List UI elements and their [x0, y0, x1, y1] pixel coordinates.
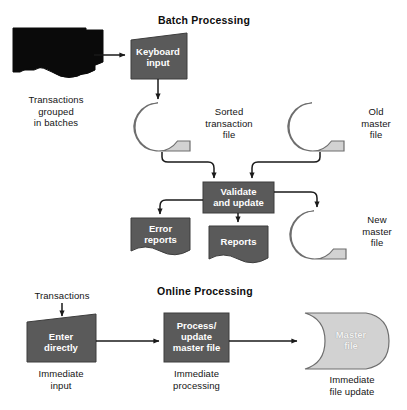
node-master-file[interactable]	[305, 313, 389, 369]
node-reports[interactable]	[209, 226, 268, 263]
flow-validate-to-new-master	[274, 192, 317, 207]
flow-sorted-tape-to-validate	[162, 152, 214, 178]
node-process-update-master-file[interactable]	[164, 313, 229, 362]
caption-batched-transactions: Transactions grouped in batches	[4, 94, 108, 129]
node-batched-transactions[interactable]	[13, 28, 103, 78]
flow-validate-to-error-reports	[160, 200, 203, 214]
caption-old-master-file: Old master file	[348, 106, 404, 141]
online-processing-title: Online Processing	[130, 285, 280, 297]
node-validate-and-update[interactable]	[203, 182, 274, 213]
caption-enter-directly: Immediate input	[25, 368, 97, 391]
caption-online-transactions: Transactions	[22, 290, 102, 302]
flow-old-master-to-validate	[252, 152, 320, 178]
node-enter-directly[interactable]	[27, 314, 96, 362]
node-keyboard-input[interactable]	[131, 33, 187, 79]
node-error-reports[interactable]	[131, 218, 190, 255]
node-old-master-file[interactable]	[288, 103, 344, 151]
node-sorted-transaction-file[interactable]	[134, 103, 190, 151]
caption-new-master-file: New master file	[350, 214, 404, 249]
batch-processing-title: Batch Processing	[124, 14, 284, 26]
caption-process-update-master-file: Immediate processing	[158, 368, 235, 391]
caption-master-file: Immediate file update	[310, 374, 394, 397]
caption-sorted-transaction-file: Sorted transaction file	[192, 106, 266, 141]
flowchart-diagram: Batch Processing Transactions grouped in…	[0, 0, 407, 410]
diagram-canvas	[0, 0, 407, 410]
node-new-master-file[interactable]	[290, 211, 346, 259]
